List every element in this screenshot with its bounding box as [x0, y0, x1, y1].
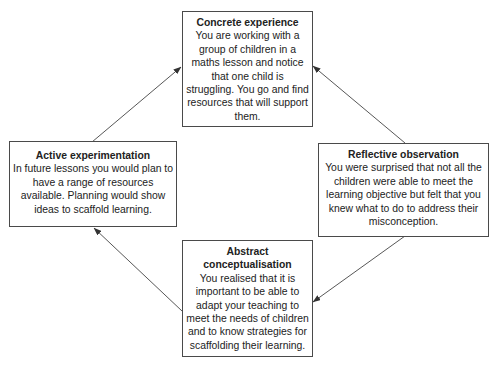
arrow-active-to-concrete	[92, 67, 181, 142]
node-reflective-observation: Reflective observation You were surprise…	[318, 143, 489, 237]
arrow-reflective-to-abstract	[313, 236, 405, 302]
node-concrete-experience: Concrete experience You are working with…	[182, 11, 313, 127]
node-body: You are working with a group of children…	[186, 29, 309, 123]
arrow-abstract-to-active	[94, 228, 182, 311]
node-body: In future lessons you would plan to have…	[13, 162, 173, 216]
node-body: You were surprised that not all the chil…	[322, 161, 485, 228]
node-title: Active experimentation	[13, 149, 173, 162]
node-title: Concrete experience	[186, 16, 309, 29]
node-body: You realised that it is important to be …	[186, 272, 309, 352]
node-abstract-conceptualisation: Abstract conceptualisation You realised …	[182, 240, 313, 357]
arrow-concrete-to-reflective	[313, 66, 405, 143]
node-title: Abstract conceptualisation	[186, 245, 309, 272]
node-active-experimentation: Active experimentation In future lessons…	[9, 141, 177, 227]
node-title: Reflective observation	[322, 148, 485, 161]
